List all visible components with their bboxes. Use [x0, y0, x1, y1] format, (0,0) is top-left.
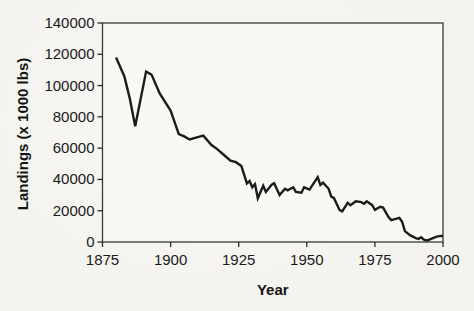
- x-tick-label: 1900: [154, 251, 187, 268]
- landings-line-chart: 1875190019251950197520000200004000060000…: [0, 0, 474, 311]
- x-axis-title: Year: [257, 281, 289, 298]
- x-tick-label: 1925: [222, 251, 255, 268]
- y-axis-title: Landings (x 1000 lbs): [14, 58, 31, 211]
- x-tick-label: 1875: [86, 251, 119, 268]
- y-tick-label: 80000: [53, 108, 95, 125]
- plot-frame: [103, 23, 444, 242]
- y-tick-label: 60000: [53, 139, 95, 156]
- x-tick-label: 1950: [290, 251, 323, 268]
- y-tick-label: 40000: [53, 170, 95, 187]
- x-tick-label: 1975: [358, 251, 391, 268]
- y-tick-label: 20000: [53, 202, 95, 219]
- y-tick-label: 100000: [44, 77, 94, 94]
- x-tick-label: 2000: [426, 251, 459, 268]
- y-tick-label: 120000: [44, 45, 94, 62]
- y-tick-label: 140000: [44, 14, 94, 31]
- landings-chart-figure: 1875190019251950197520000200004000060000…: [0, 0, 474, 311]
- y-tick-label: 0: [86, 233, 94, 250]
- plot-layer: 1875190019251950197520000200004000060000…: [44, 14, 459, 268]
